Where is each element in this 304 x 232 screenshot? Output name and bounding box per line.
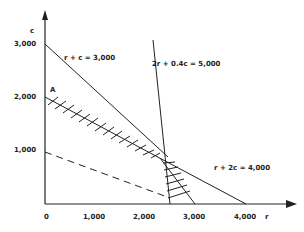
chart-plot [0,0,304,232]
y-axis-arrow-icon [42,10,48,20]
line-dashed-iso [45,152,170,198]
x-axis-label: r [265,213,268,221]
origin-label: 0 [44,213,49,221]
x-axis-arrow-icon [286,200,297,208]
hatched-region [48,97,195,204]
y-axis-label: c [30,27,34,35]
line-r-plus-2c-4000 [45,97,246,204]
x-tick-1000: 1,000 [83,213,105,221]
y-tick-2000: 2,000 [14,93,36,101]
eq-2r-plus-04c-label: 2r + 0.4c = 5,000 [152,60,221,68]
y-tick-3000: 3,000 [14,40,36,48]
eq-r-plus-2c-label: r + 2c = 4,000 [214,164,270,172]
point-a-label: A [50,86,55,94]
x-tick-4000: 4,000 [234,213,256,221]
eq-r-plus-c-label: r + c = 3,000 [64,54,115,62]
y-tick-1000: 1,000 [14,146,36,154]
x-tick-3000: 3,000 [183,213,205,221]
x-tick-2000: 2,000 [133,213,155,221]
